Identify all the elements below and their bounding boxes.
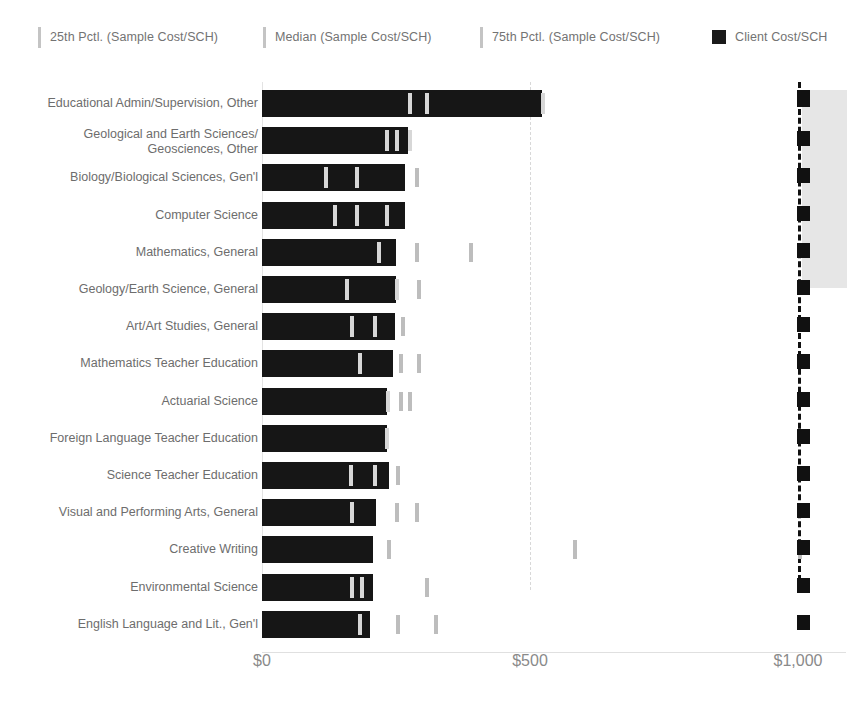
client-cost-bar[interactable]: [262, 499, 376, 526]
chart-row[interactable]: Mathematics Teacher Education: [0, 350, 866, 377]
category-label: Mathematics, General: [8, 245, 258, 260]
client-cost-bar[interactable]: [262, 350, 393, 377]
client-cost-marker[interactable]: [797, 503, 810, 518]
median-tick[interactable]: [395, 279, 399, 300]
client-cost-bar[interactable]: [262, 425, 387, 452]
p75-tick[interactable]: [408, 130, 412, 151]
chart-row[interactable]: Art/Art Studies, General: [0, 313, 866, 340]
median-tick[interactable]: [425, 93, 429, 114]
p75-tick[interactable]: [417, 354, 421, 373]
p75-tick[interactable]: [469, 243, 473, 262]
p25-tick[interactable]: [386, 391, 390, 412]
median-tick[interactable]: [355, 205, 359, 226]
axis-baseline: [262, 652, 846, 653]
chart-row[interactable]: Foreign Language Teacher Education: [0, 425, 866, 452]
p25-tick[interactable]: [350, 316, 354, 337]
chart-row[interactable]: Geological and Earth Sciences/Geoscience…: [0, 127, 866, 154]
p75-tick[interactable]: [396, 466, 400, 485]
chart-row[interactable]: Computer Science: [0, 202, 866, 229]
chart-row[interactable]: Science Teacher Education: [0, 462, 866, 489]
client-cost-marker[interactable]: [797, 280, 810, 295]
p75-tick[interactable]: [434, 615, 438, 634]
median-tick[interactable]: [399, 354, 403, 373]
client-cost-marker[interactable]: [797, 90, 810, 107]
client-cost-marker[interactable]: [797, 540, 810, 555]
legend-label: Median (Sample Cost/SCH): [275, 30, 432, 44]
chart-row[interactable]: Geology/Earth Science, General: [0, 276, 866, 303]
chart-row[interactable]: Biology/Biological Sciences, Gen'l: [0, 164, 866, 191]
p25-tick[interactable]: [350, 577, 354, 598]
chart-row[interactable]: English Language and Lit., Gen'l: [0, 611, 866, 638]
p25-tick[interactable]: [350, 502, 354, 523]
client-cost-bar[interactable]: [262, 164, 405, 191]
category-label: Art/Art Studies, General: [8, 319, 258, 334]
client-cost-marker[interactable]: [797, 131, 810, 146]
p75-tick[interactable]: [541, 93, 545, 114]
client-cost-marker[interactable]: [797, 354, 810, 369]
legend-bar-icon: [263, 27, 266, 48]
p25-tick[interactable]: [385, 130, 389, 151]
p75-tick[interactable]: [415, 168, 419, 187]
p25-tick[interactable]: [358, 353, 362, 374]
p75-tick[interactable]: [417, 280, 421, 299]
category-label: Actuarial Science: [8, 394, 258, 409]
client-cost-marker[interactable]: [797, 243, 810, 258]
p25-tick[interactable]: [349, 465, 353, 486]
p25-tick[interactable]: [333, 205, 337, 226]
client-cost-bar[interactable]: [262, 239, 396, 266]
client-cost-marker[interactable]: [797, 578, 810, 593]
p25-tick[interactable]: [408, 93, 412, 114]
legend-item-3[interactable]: Client Cost/SCH: [712, 24, 828, 50]
legend-item-1[interactable]: Median (Sample Cost/SCH): [263, 24, 432, 50]
legend-bar-icon: [38, 27, 41, 48]
client-cost-bar[interactable]: [262, 536, 373, 563]
chart-row[interactable]: Visual and Performing Arts, General: [0, 499, 866, 526]
client-cost-marker[interactable]: [797, 615, 810, 630]
legend-item-0[interactable]: 25th Pctl. (Sample Cost/SCH): [38, 24, 218, 50]
chart-row[interactable]: Creative Writing: [0, 536, 866, 563]
p75-tick[interactable]: [401, 317, 405, 336]
median-tick[interactable]: [573, 540, 577, 559]
x-tick-label: $0: [253, 652, 271, 670]
client-cost-marker[interactable]: [797, 206, 810, 221]
client-cost-bar[interactable]: [262, 90, 542, 117]
client-cost-bar[interactable]: [262, 276, 396, 303]
p75-tick[interactable]: [408, 392, 412, 411]
client-cost-bar[interactable]: [262, 574, 373, 601]
p75-tick[interactable]: [415, 503, 419, 522]
median-tick[interactable]: [373, 316, 377, 337]
chart-row[interactable]: Educational Admin/Supervision, Other: [0, 90, 866, 117]
p75-tick[interactable]: [385, 428, 389, 449]
x-axis: $0$500$1,000: [0, 652, 866, 682]
category-label: Environmental Science: [8, 580, 258, 595]
client-cost-marker[interactable]: [797, 429, 810, 444]
p25-tick[interactable]: [377, 242, 381, 263]
p25-tick[interactable]: [358, 614, 362, 635]
median-tick[interactable]: [355, 167, 359, 188]
legend-item-2[interactable]: 75th Pctl. (Sample Cost/SCH): [480, 24, 660, 50]
p25-tick[interactable]: [324, 167, 328, 188]
median-tick[interactable]: [373, 465, 377, 486]
chart-row[interactable]: Environmental Science: [0, 574, 866, 601]
p75-tick[interactable]: [425, 578, 429, 597]
median-tick[interactable]: [360, 577, 364, 598]
p25-tick[interactable]: [345, 279, 349, 300]
chart-row[interactable]: Actuarial Science: [0, 388, 866, 415]
p75-tick[interactable]: [385, 205, 389, 226]
legend-box-icon: [712, 30, 726, 44]
p25-tick[interactable]: [387, 540, 391, 559]
client-cost-bar[interactable]: [262, 611, 370, 638]
client-cost-marker[interactable]: [797, 392, 810, 407]
client-cost-marker[interactable]: [797, 168, 810, 183]
client-cost-bar[interactable]: [262, 388, 387, 415]
median-tick[interactable]: [399, 392, 403, 411]
chart-row[interactable]: Mathematics, General: [0, 239, 866, 266]
median-tick[interactable]: [395, 503, 399, 522]
median-tick[interactable]: [396, 615, 400, 634]
client-cost-marker[interactable]: [797, 466, 810, 481]
median-tick[interactable]: [415, 243, 419, 262]
client-cost-bar[interactable]: [262, 462, 389, 489]
client-cost-marker[interactable]: [797, 317, 810, 332]
category-label: Foreign Language Teacher Education: [8, 431, 258, 446]
median-tick[interactable]: [395, 130, 399, 151]
